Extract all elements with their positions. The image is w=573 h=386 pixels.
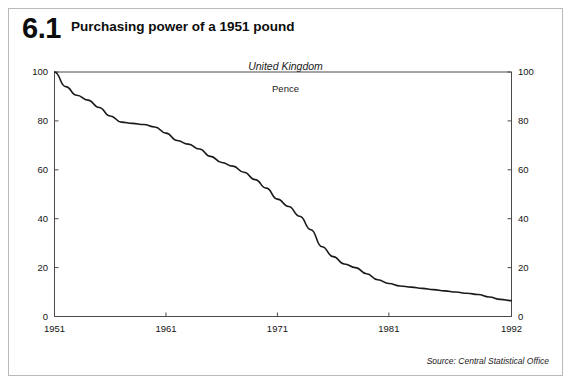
y-tick-label-left: 100 (18, 66, 48, 77)
y-tick-label-right: 60 (518, 164, 548, 175)
figure-header: 6.1 Purchasing power of a 1951 pound (9, 9, 562, 51)
line-chart-svg (54, 64, 512, 317)
figure-number: 6.1 (22, 11, 61, 45)
x-tick-label: 1951 (31, 323, 79, 334)
y-tick-label-right: 100 (518, 66, 548, 77)
x-tick-label: 1981 (365, 323, 413, 334)
y-tick-label-left: 20 (18, 262, 48, 273)
y-tick-label-right: 80 (518, 115, 548, 126)
y-tick-label-left: 40 (18, 213, 48, 224)
axes-group (55, 72, 512, 317)
y-tick-label-right: 40 (518, 213, 548, 224)
source-note: Source: Central Statistical Office (427, 356, 549, 366)
plot-area: 0020204040606080801001001951196119711981… (54, 64, 512, 317)
y-tick-label-left: 80 (18, 115, 48, 126)
y-tick-label-right: 20 (518, 262, 548, 273)
y-tick-label-left: 0 (18, 311, 48, 322)
figure-title: Purchasing power of a 1951 pound (71, 18, 295, 36)
y-tick-label-right: 0 (518, 311, 548, 322)
y-tick-label-left: 60 (18, 164, 48, 175)
x-tick-label: 1961 (142, 323, 190, 334)
x-tick-label: 1971 (253, 323, 301, 334)
ticks-group (55, 72, 512, 317)
figure-panel: 6.1 Purchasing power of a 1951 pound Uni… (8, 8, 563, 376)
x-tick-label: 1992 (488, 323, 536, 334)
data-series-line (55, 72, 512, 301)
